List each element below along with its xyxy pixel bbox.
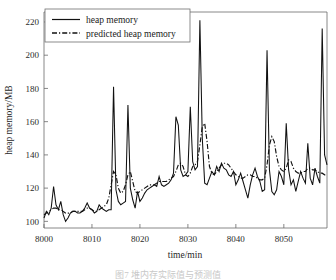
- y-tick-label: 140: [26, 150, 40, 160]
- series-line-heap-memory: [44, 20, 327, 221]
- x-tick-label: 8020: [131, 234, 150, 244]
- legend-label-heap-memory: heap memory: [86, 15, 138, 25]
- y-tick-label: 180: [26, 84, 40, 94]
- y-tick-label: 200: [26, 50, 40, 60]
- legend-label-predicted-heap-memory: predicted heap memory: [86, 29, 176, 39]
- figure-caption: 图7 堆内存实际值与预测值: [0, 268, 336, 280]
- x-tick-label: 8030: [179, 234, 198, 244]
- y-axis-title: heap memory/MB: [4, 85, 14, 154]
- x-tick-label: 8000: [35, 234, 54, 244]
- y-tick-label: 100: [26, 217, 40, 227]
- chart-legend: heap memory predicted heap memory: [45, 9, 190, 42]
- x-axis-title: time/min: [168, 250, 203, 260]
- y-axis-ticks: 100120140160180200220: [26, 17, 49, 226]
- x-tick-label: 8050: [275, 234, 294, 244]
- heap-memory-line-chart: 100120140160180200220 800080108020803080…: [0, 0, 336, 280]
- y-tick-label: 120: [26, 183, 40, 193]
- y-tick-label: 160: [26, 117, 40, 127]
- x-axis-ticks: 800080108020803080408050: [35, 224, 293, 244]
- x-tick-label: 8040: [227, 234, 246, 244]
- y-tick-label: 220: [26, 17, 40, 27]
- data-series-layer: [44, 20, 327, 221]
- axes-frame: [44, 12, 327, 228]
- figure-container: 100120140160180200220 800080108020803080…: [0, 0, 336, 280]
- x-tick-label: 8010: [83, 234, 102, 244]
